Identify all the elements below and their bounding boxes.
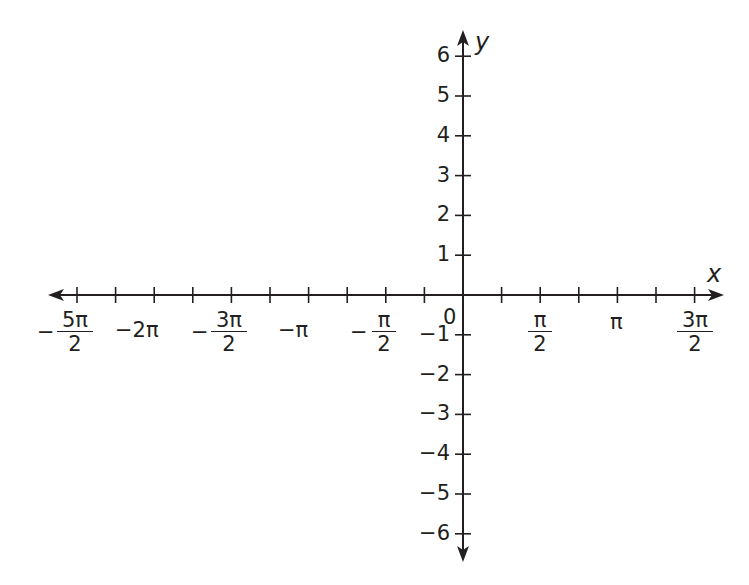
x-tick-label-pi: π (610, 312, 623, 333)
y-tick-label: 4 (410, 125, 450, 146)
y-tick-label: −2 (410, 364, 450, 385)
y-axis-label: y (475, 30, 489, 54)
y-tick-label: −4 (410, 443, 450, 464)
x-tick-label-neg-pi: −π (278, 320, 308, 341)
y-tick-label: 3 (410, 165, 450, 186)
y-tick-label: 1 (410, 244, 450, 265)
coordinate-plane (0, 0, 749, 585)
y-tick-label: −3 (410, 403, 450, 424)
y-tick-label: 6 (410, 45, 450, 66)
x-axis-label: x (707, 262, 721, 286)
x-tick-label-neg-2pi: −2π (115, 320, 159, 341)
y-tick-label: −1 (410, 324, 450, 345)
y-tick-label: −5 (410, 483, 450, 504)
y-tick-label: 2 (410, 204, 450, 225)
y-tick-label: 5 (410, 85, 450, 106)
y-tick-label: −6 (410, 523, 450, 544)
